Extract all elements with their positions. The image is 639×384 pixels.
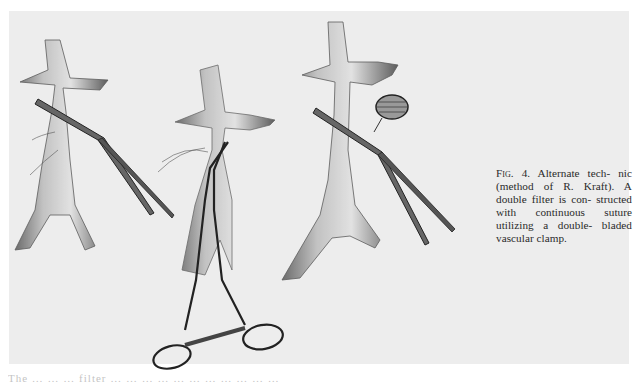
- figure-label: Fig. 4.: [496, 167, 530, 179]
- truncated-text: The … … … filter … … … … … … … … … … …: [8, 372, 280, 384]
- vessel-middle: [175, 65, 275, 275]
- suture-middle: [158, 148, 208, 172]
- mesh-filter: [374, 95, 408, 132]
- figure-caption: Fig. 4. Alternate tech- nic (method of R…: [496, 167, 632, 245]
- truncated-body-text: The … … … filter … … … … … … … … … … …: [0, 370, 639, 384]
- caption-line: Alternate tech-: [538, 167, 611, 179]
- vessel-left: [15, 40, 108, 250]
